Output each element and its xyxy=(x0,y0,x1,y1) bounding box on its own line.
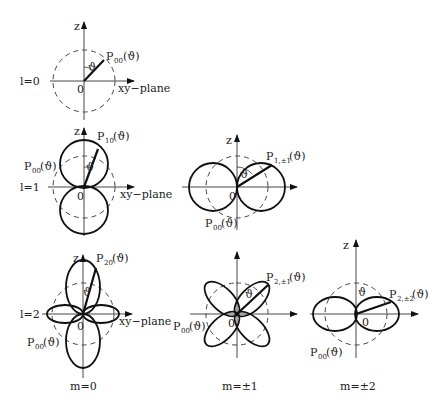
origin-label: 0 xyxy=(228,317,235,330)
svg-text:(ϑ): (ϑ) xyxy=(40,160,56,173)
xy-plane-label: xy−plane xyxy=(120,188,172,201)
origin-label: 0 xyxy=(77,320,84,333)
svg-text:(ϑ): (ϑ) xyxy=(326,346,342,359)
xy-plane-label: xy−plane xyxy=(119,315,171,328)
function-label: P 1,±1 (ϑ) xyxy=(266,150,305,165)
origin-label: 0 xyxy=(77,83,84,96)
svg-text:(ϑ): (ϑ) xyxy=(289,271,305,284)
panel-l1-m1: z ϑ 0 P 1,±1 (ϑ) P 00 (ϑ) xyxy=(182,134,305,232)
xy-plane-label: xy−plane xyxy=(118,82,170,95)
origin-label: 0 xyxy=(77,190,84,203)
function-label: P 00 (ϑ) xyxy=(106,50,139,65)
theta-label: ϑ xyxy=(358,286,366,299)
row-label-l2: l=2 xyxy=(20,308,40,321)
svg-text:(ϑ): (ϑ) xyxy=(412,288,428,301)
function-label: P 2,±2 (ϑ) xyxy=(389,288,428,303)
panel-l1-m0: z ϑ 0 xy−plane l=1 P 10 (ϑ) P 00 (ϑ) xyxy=(20,125,172,236)
svg-text:(ϑ): (ϑ) xyxy=(113,130,129,143)
svg-text:P: P xyxy=(24,160,32,173)
reference-label: P 00 (ϑ) xyxy=(173,320,205,335)
svg-text:(ϑ): (ϑ) xyxy=(289,150,305,163)
function-label: P 20 (ϑ) xyxy=(96,252,128,267)
svg-text:(ϑ): (ϑ) xyxy=(112,252,128,265)
z-label: z xyxy=(343,239,349,252)
z-label: z xyxy=(226,134,232,147)
column-label-m1: m=±1 xyxy=(222,380,258,393)
svg-text:(ϑ): (ϑ) xyxy=(189,320,205,333)
panel-l2-m1: ϑ 0 m=±1 P 2,±1 (ϑ) P 00 (ϑ) xyxy=(173,252,305,393)
theta-label: ϑ xyxy=(240,168,248,181)
reference-label: P 00 (ϑ) xyxy=(310,346,342,361)
svg-text:P: P xyxy=(106,50,114,63)
z-label: z xyxy=(74,125,80,138)
row-label-l0: l=0 xyxy=(20,75,40,88)
function-label: P 2,±1 (ϑ) xyxy=(266,271,305,286)
reference-label: P 00 (ϑ) xyxy=(27,336,59,351)
svg-text:(ϑ): (ϑ) xyxy=(123,50,139,63)
z-label: z xyxy=(73,252,79,265)
harmonics-diagram: z ϑ 0 xy−plane l=0 P 00 (ϑ) z ϑ 0 xy−pla… xyxy=(0,0,448,412)
svg-text:P: P xyxy=(96,252,104,265)
theta-label: ϑ xyxy=(83,286,91,299)
column-label-m2: m=±2 xyxy=(340,380,376,393)
svg-text:00: 00 xyxy=(114,57,123,65)
svg-text:P: P xyxy=(389,288,397,301)
panel-l2-m2: z ϑ 0 m=±2 P 2,±2 (ϑ) P 00 (ϑ) xyxy=(310,239,428,393)
theta-label: ϑ xyxy=(86,161,94,174)
theta-label: ϑ xyxy=(88,61,96,74)
row-label-l1: l=1 xyxy=(20,181,40,194)
vector-arrow xyxy=(356,302,391,314)
svg-text:P: P xyxy=(310,346,318,359)
z-label: z xyxy=(74,20,80,33)
svg-text:P: P xyxy=(266,271,274,284)
function-label: P 10 (ϑ) xyxy=(97,130,129,145)
svg-text:P: P xyxy=(266,150,274,163)
svg-text:P: P xyxy=(97,130,105,143)
panel-l0-m0: z ϑ 0 xy−plane l=0 P 00 (ϑ) xyxy=(20,20,170,120)
reference-label: P 00 (ϑ) xyxy=(24,160,56,175)
svg-text:P: P xyxy=(205,217,213,230)
svg-text:P: P xyxy=(173,320,181,333)
panel-l2-m0: z ϑ 0 xy−plane l=2 m=0 P 20 (ϑ) P 00 (ϑ) xyxy=(20,252,171,393)
svg-text:P: P xyxy=(27,336,35,349)
reference-label: P 00 (ϑ) xyxy=(205,217,237,232)
column-label-m0: m=0 xyxy=(70,380,97,393)
origin-label: 0 xyxy=(229,190,236,203)
svg-text:(ϑ): (ϑ) xyxy=(43,336,59,349)
svg-text:(ϑ): (ϑ) xyxy=(221,217,237,230)
theta-label: ϑ xyxy=(245,288,253,301)
origin-label: 0 xyxy=(362,316,369,329)
